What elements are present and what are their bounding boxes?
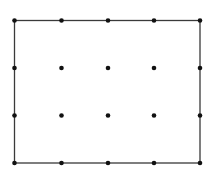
grid-dot xyxy=(152,66,157,71)
grid-dot xyxy=(12,66,17,71)
grid-dot xyxy=(152,18,157,23)
grid-dot xyxy=(12,161,17,166)
grid-dot xyxy=(198,66,203,71)
grid-dot xyxy=(152,113,157,118)
grid-dot xyxy=(106,66,111,71)
grid-dot xyxy=(59,66,64,71)
grid-dot xyxy=(106,161,111,166)
grid-dot xyxy=(198,18,203,23)
grid-dot xyxy=(106,113,111,118)
grid-dot xyxy=(106,18,111,23)
grid-dot xyxy=(198,161,203,166)
dot-grid-svg xyxy=(0,0,215,177)
grid-dot xyxy=(152,161,157,166)
grid-dots xyxy=(12,18,202,165)
dot-grid-diagram xyxy=(0,0,215,177)
rectangle-border xyxy=(15,21,201,164)
grid-dot xyxy=(59,18,64,23)
grid-dot xyxy=(12,113,17,118)
grid-dot xyxy=(59,161,64,166)
grid-dot xyxy=(59,113,64,118)
grid-dot xyxy=(12,18,17,23)
grid-dot xyxy=(198,113,203,118)
